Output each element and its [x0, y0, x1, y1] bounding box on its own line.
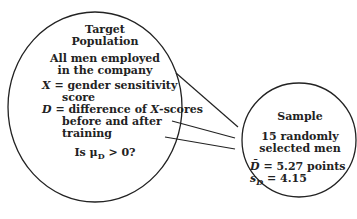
- d-def-text: training: [42, 127, 112, 140]
- question-text: Is μ: [74, 146, 97, 159]
- d-def-text: -scores: [159, 103, 203, 116]
- population-title: Target Population: [60, 24, 150, 48]
- d-definition: D = difference of X-scores before and af…: [42, 104, 203, 140]
- x-definition: X = gender sensitivity score: [42, 80, 177, 104]
- population-question: Is μD > 0?: [60, 147, 150, 162]
- question-subscript: D: [98, 151, 105, 161]
- population-description: All men employed in the company: [40, 53, 170, 77]
- sample-description: 15 randomly selected men: [250, 131, 350, 155]
- sample-title: Sample: [260, 111, 340, 123]
- question-text: > 0?: [105, 146, 136, 159]
- desc-line: selected men: [250, 143, 350, 155]
- sample-stats: D̄ = 5.27 points sD = 4.15: [250, 161, 346, 188]
- desc-line: in the company: [40, 65, 170, 77]
- title-line: Population: [60, 36, 150, 48]
- sd-value: = 4.15: [263, 172, 307, 185]
